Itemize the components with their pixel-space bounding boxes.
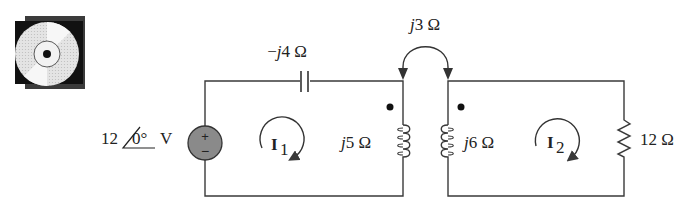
capacitor-label: −j4 Ω	[267, 42, 307, 61]
resistor	[618, 118, 630, 160]
svg-text:I: I	[271, 135, 278, 154]
svg-text:12: 12	[101, 129, 118, 148]
svg-text:−: −	[201, 143, 209, 159]
inductor-left	[387, 104, 410, 161]
inductor-left-label: j5 Ω	[339, 133, 371, 152]
svg-text:+: +	[201, 129, 209, 144]
svg-text:1: 1	[280, 140, 289, 159]
capacitor	[301, 71, 308, 92]
circuit-diagram: −j4 Ω + − 12 0° V I 1 j5 Ω j6 Ω	[0, 0, 692, 205]
mutual-inductance-label: j3 Ω	[408, 15, 440, 34]
svg-text:0°: 0°	[132, 129, 147, 148]
resistor-label: 12 Ω	[640, 130, 674, 149]
mesh-current-2: I 2	[535, 119, 579, 158]
mesh-current-1: I 1	[260, 117, 304, 159]
inductor-right-label: j6 Ω	[462, 133, 494, 152]
voltage-source-label: 12 0° V	[101, 127, 173, 148]
cd-rom-icon	[15, 16, 85, 89]
mutual-inductance-arrow	[398, 47, 453, 80]
inductor-right	[441, 104, 464, 161]
svg-text:2: 2	[556, 138, 565, 157]
svg-text:V: V	[160, 129, 173, 148]
voltage-source: + −	[188, 126, 222, 160]
svg-text:I: I	[547, 133, 554, 152]
